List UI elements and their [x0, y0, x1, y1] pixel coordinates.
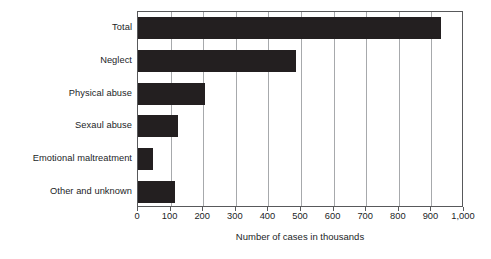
x-axis-title: Number of cases in thousands: [137, 231, 463, 243]
x-axis-tick-label: 800: [390, 211, 406, 222]
x-axis-tick-label: 600: [325, 211, 341, 222]
bar-chart: Total Neglect Physical abuse Sexaul abus…: [0, 0, 491, 259]
bar: [138, 115, 178, 137]
x-axis-tick-label: 300: [227, 211, 243, 222]
category-label: Sexaul abuse: [0, 120, 132, 130]
category-label: Total: [0, 22, 132, 32]
category-label: Emotional maltreatment: [0, 153, 132, 163]
bar: [138, 148, 153, 170]
bar-series: [138, 12, 462, 206]
category-label: Neglect: [0, 55, 132, 65]
x-axis-tick-label: 200: [194, 211, 210, 222]
category-axis-labels: Total Neglect Physical abuse Sexaul abus…: [0, 11, 132, 207]
bar: [138, 83, 205, 105]
x-axis-tick-label: 0: [134, 211, 139, 222]
category-label: Other and unknown: [0, 186, 132, 196]
bar: [138, 181, 175, 203]
x-axis-tick-label: 400: [260, 211, 276, 222]
plot-area: [137, 11, 463, 207]
bar: [138, 17, 441, 39]
category-label: Physical abuse: [0, 88, 132, 98]
x-axis-tick-labels: 01002003004005006007008009001,000: [0, 211, 491, 225]
x-axis-tick-label: 1,000: [451, 211, 474, 222]
x-axis-tick-label: 700: [357, 211, 373, 222]
x-axis-tick-label: 900: [423, 211, 439, 222]
bar: [138, 50, 296, 72]
x-axis-tick-label: 100: [162, 211, 178, 222]
x-axis-tick-label: 500: [292, 211, 308, 222]
